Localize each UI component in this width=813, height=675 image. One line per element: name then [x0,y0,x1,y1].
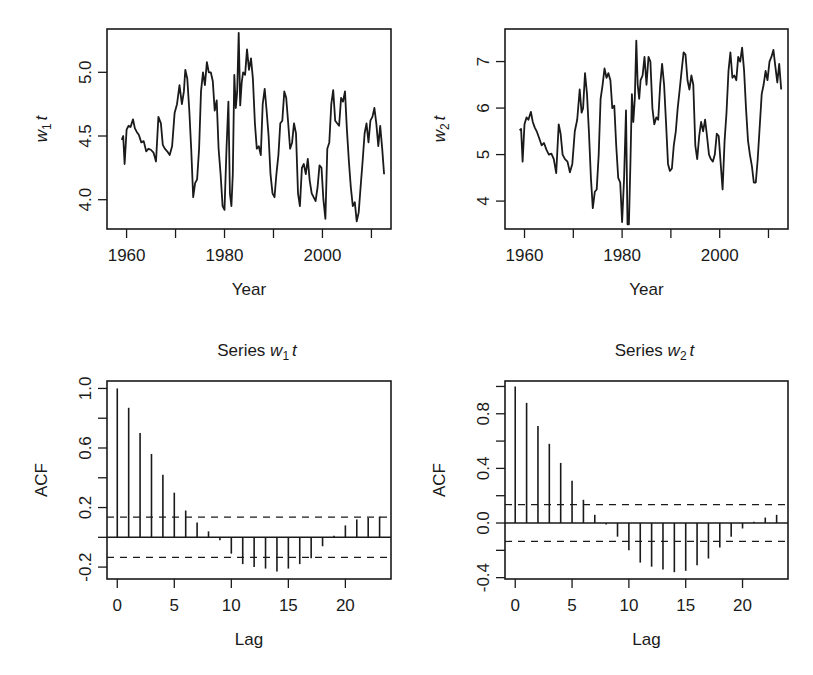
y-axis-title: w2t [430,114,452,142]
panel-w1t_acf: Series w1t05101520Lag-0.20.20.61.0ACF [32,341,391,649]
x-tick-label: 2000 [304,246,342,265]
y-tick-label: 5.0 [76,60,95,84]
x-axis: 196019802000Year [108,229,372,299]
x-axis-title: Year [629,280,664,299]
y-tick-label: 0.6 [76,436,95,460]
y-tick-label: 7 [474,57,493,66]
y-tick-label: 0.8 [474,402,493,426]
x-axis-title: Year [232,280,267,299]
x-tick-label: 20 [733,596,752,615]
panel-w1t_series: 196019802000Year4.04.55.0w1t [32,29,391,299]
x-tick-label: 10 [222,596,241,615]
y-axis: 4.04.55.0w1t [32,60,107,211]
x-tick-label: 1960 [108,246,146,265]
y-tick-label: -0.4 [474,563,493,592]
plot-frame [107,29,391,229]
plot-frame [505,381,788,579]
chart-title: Series w1t [217,341,298,363]
y-tick-label: 4.5 [76,124,95,148]
figure: 196019802000Year4.04.55.0w1t196019802000… [0,0,813,675]
x-tick-label: 15 [676,596,695,615]
series-line [122,33,384,222]
x-tick-label: 5 [567,596,576,615]
y-tick-label: 4.0 [76,188,95,212]
y-tick-label: 0.4 [474,457,493,481]
y-axis: -0.20.20.61.0ACF [32,377,107,582]
y-tick-label: 0.2 [76,496,95,520]
y-axis-title: w1t [32,114,54,142]
y-tick-label: 1.0 [76,377,95,401]
y-tick-label: 6 [474,103,493,112]
x-tick-label: 5 [170,596,179,615]
y-tick-label: -0.2 [76,552,95,581]
x-tick-label: 10 [619,596,638,615]
x-tick-label: 1980 [206,246,244,265]
acf-bars [515,386,776,572]
y-axis-title: ACF [32,463,51,497]
acf-bars [117,388,379,571]
y-axis: -0.40.00.40.8ACF [430,386,505,592]
x-tick-label: 2000 [701,246,739,265]
x-tick-label: 0 [510,596,519,615]
chart-canvas: 196019802000Year4.04.55.0w1t196019802000… [0,0,813,675]
series-line [520,41,782,225]
y-tick-label: 4 [474,196,493,205]
x-axis: 196019802000Year [506,229,769,299]
panel-w2t_series: 196019802000Year4567w2t [430,29,788,299]
y-tick-label: 5 [474,150,493,159]
plot-frame [107,381,391,579]
chart-title: Series w2t [615,341,696,363]
panel-w2t_acf: Series w2t05101520Lag-0.40.00.40.8ACF [430,341,788,649]
x-axis: 05101520Lag [510,579,752,649]
y-axis: 4567w2t [430,57,505,206]
x-tick-label: 15 [279,596,298,615]
x-axis: 05101520Lag [113,579,355,649]
y-axis-title: ACF [430,463,449,497]
y-tick-label: 0.0 [474,511,493,535]
plot-frame [505,29,788,229]
x-tick-label: 1980 [603,246,641,265]
x-tick-label: 0 [113,596,122,615]
x-tick-label: 1960 [506,246,544,265]
x-tick-label: 20 [336,596,355,615]
x-axis-title: Lag [235,630,263,649]
x-axis-title: Lag [632,630,660,649]
